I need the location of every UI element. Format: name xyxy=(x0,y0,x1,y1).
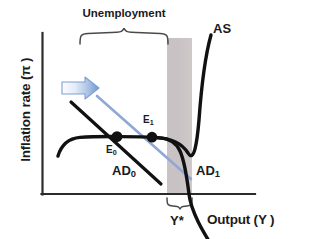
as-curve-label: AS xyxy=(213,22,231,35)
ad1-curve-label: AD1 xyxy=(196,164,220,179)
e0-point-label-subscript: 0 xyxy=(113,148,117,157)
as-curve-overlay xyxy=(0,0,309,239)
unemployment-label: Unemployment xyxy=(78,8,170,20)
e0-point-label: E0 xyxy=(106,145,117,156)
e1-point-label: E1 xyxy=(143,115,154,126)
x-axis-label: Output (Y ) xyxy=(207,213,274,227)
ad-as-diagram-figure: Inflation rate (π ) Output (Y ) Unemploy… xyxy=(0,0,309,239)
ad1-curve-label-text: AD xyxy=(196,163,215,178)
y-axis-label: Inflation rate (π ) xyxy=(19,40,33,180)
ad0-curve-label-text: AD xyxy=(112,163,131,178)
ad1-curve-label-subscript: 1 xyxy=(215,169,220,179)
ad0-curve-label-subscript: 0 xyxy=(131,169,136,179)
e1-point-label-text: E xyxy=(143,114,150,125)
e1-point-label-subscript: 1 xyxy=(150,118,154,127)
e0-point-label-text: E xyxy=(106,144,113,155)
potential-output-label: Y* xyxy=(170,214,184,227)
ad0-curve-label: AD0 xyxy=(112,164,136,179)
